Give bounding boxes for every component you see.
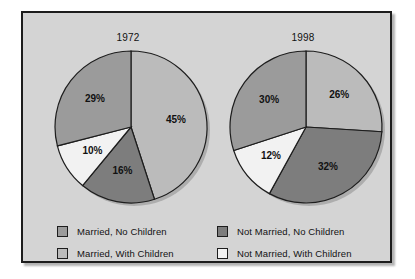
pie-slice-label: 12% [261, 150, 281, 161]
legend-item-not-married-with-children: Not Married, With Children [217, 244, 352, 262]
pie-slice-label: 30% [259, 94, 279, 105]
legend-item-married-with-children: Married, With Children [57, 244, 174, 262]
legend-swatch-not-married-with-children [217, 248, 228, 259]
pie-slice-label: 26% [329, 89, 349, 100]
chart-panel: 1972 1998 45%16%10%29% 26%32%12%30% Marr… [21, 11, 392, 263]
legend-item-not-married-no-children: Not Married, No Children [217, 222, 344, 240]
legend-label-not-married-no-children: Not Married, No Children [237, 226, 344, 237]
pie-chart-1998: 26%32%12%30% [228, 45, 388, 210]
legend-swatch-married-no-children [57, 226, 68, 237]
pie-slice-label: 16% [112, 165, 132, 176]
legend-swatch-married-with-children [57, 248, 68, 259]
legend-item-married-no-children: Married, No Children [57, 222, 167, 240]
pie-chart-figure: 1972 1998 45%16%10%29% 26%32%12%30% Marr… [0, 0, 415, 279]
legend-swatch-not-married-no-children [217, 226, 228, 237]
legend-label-not-married-with-children: Not Married, With Children [237, 248, 352, 259]
legend-label-married-no-children: Married, No Children [77, 226, 167, 237]
chart-legend: Married, No Children Married, With Child… [57, 220, 402, 266]
pie-slice-label: 10% [82, 145, 102, 156]
pie-title-1972: 1972 [96, 32, 160, 43]
pie-slice-label: 45% [166, 114, 186, 125]
pie-chart-1972: 45%16%10%29% [53, 45, 213, 210]
pie-slice-label: 32% [318, 161, 338, 172]
pie-title-1998: 1998 [271, 32, 335, 43]
legend-label-married-with-children: Married, With Children [77, 248, 174, 259]
pie-slice-label: 29% [85, 93, 105, 104]
